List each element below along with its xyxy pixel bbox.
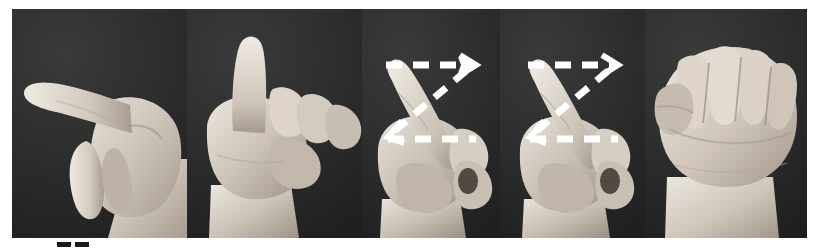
- figure-root: [0, 0, 818, 250]
- panel-index-finger-pointing-up: [187, 9, 362, 238]
- hand-illustration-diagonal: [362, 9, 500, 238]
- registration-mark-right: [75, 242, 89, 247]
- panel-index-finger-diagonal-with-z-path-repeat: [500, 9, 645, 238]
- hand-illustration-closed-fist: [645, 9, 807, 238]
- panel-index-finger-diagonal-with-z-path: [362, 9, 500, 238]
- registration-mark-left: [57, 242, 71, 247]
- panel-index-finger-pointing-left: [12, 9, 187, 238]
- hand-illustration-diagonal-repeat: [500, 9, 645, 238]
- hand-illustration-pointing-up: [187, 9, 362, 238]
- panel-closed-fist: [645, 9, 807, 238]
- hand-illustration-pointing-left: [12, 9, 187, 238]
- photo-strip: [12, 9, 807, 238]
